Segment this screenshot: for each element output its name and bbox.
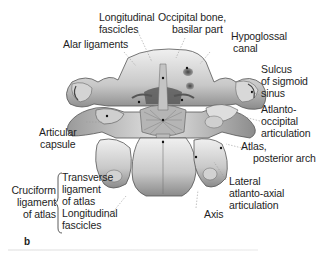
cropped-caption-line [8, 249, 258, 251]
label-cruciform-ligament: Cruciform ligament of atlas [8, 184, 56, 220]
label-atlas-posterior-arch: Atlas, posterior arch [241, 140, 316, 164]
label-alar-ligaments: Alar ligaments [63, 38, 128, 50]
axis-vertebra [96, 138, 228, 196]
panel-letter: b [24, 236, 30, 247]
label-longitudinal-fascicles-top: Longitudinal fascicles [99, 11, 154, 35]
label-articular-capsule: Articular capsule [39, 126, 77, 150]
label-longitudinal-fascicles-bottom: Longitudinal fascicles [62, 207, 117, 231]
label-atlanto-occipital-articulation: Atlanto- occipital articulation [261, 103, 311, 139]
label-sulcus-sigmoid-sinus: Sulcus of sigmoid sinus [261, 63, 308, 99]
label-hypoglossal-canal: Hypoglossal canal [231, 30, 287, 54]
anatomy-figure: Longitudinal fascicles Occipital bone, b… [0, 0, 321, 254]
label-occipital-bone: Occipital bone, basilar part [158, 11, 226, 35]
label-transverse-ligament: Transverse ligament of atlas [62, 171, 113, 207]
label-axis: Axis [204, 208, 223, 220]
label-lateral-atlanto-axial-articulation: Lateral atlanto-axial articulation [229, 175, 284, 211]
